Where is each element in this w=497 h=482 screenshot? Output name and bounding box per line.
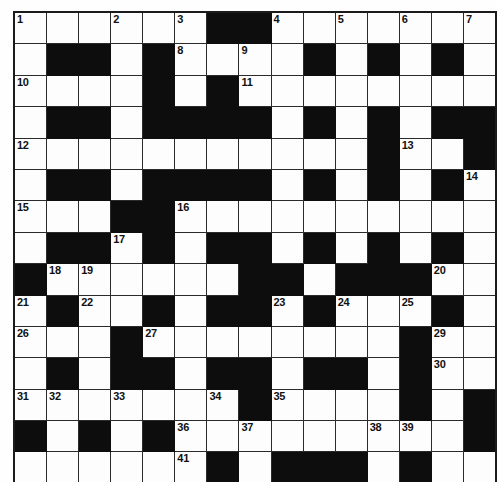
crossword-cell[interactable]: 34 — [207, 389, 239, 420]
crossword-cell[interactable] — [14, 452, 47, 482]
crossword-cell[interactable] — [367, 12, 399, 44]
crossword-cell[interactable] — [335, 75, 367, 106]
crossword-cell[interactable]: 13 — [399, 138, 431, 169]
crossword-cell[interactable] — [47, 452, 79, 482]
crossword-cell[interactable] — [271, 107, 303, 138]
crossword-cell[interactable]: 35 — [271, 389, 303, 420]
crossword-cell[interactable] — [335, 232, 367, 263]
crossword-cell[interactable] — [239, 201, 271, 232]
crossword-cell[interactable]: 11 — [239, 75, 271, 106]
crossword-cell[interactable] — [79, 389, 111, 420]
crossword-cell[interactable] — [175, 264, 207, 295]
crossword-cell[interactable] — [303, 12, 335, 44]
crossword-cell[interactable] — [271, 326, 303, 357]
crossword-cell[interactable]: 9 — [239, 44, 271, 75]
crossword-cell[interactable] — [335, 421, 367, 452]
crossword-cell[interactable] — [367, 452, 399, 482]
crossword-cell[interactable] — [463, 295, 496, 326]
crossword-cell[interactable]: 27 — [143, 326, 175, 357]
crossword-cell[interactable] — [207, 326, 239, 357]
crossword-cell[interactable] — [367, 201, 399, 232]
crossword-cell[interactable] — [47, 138, 79, 169]
crossword-cell[interactable] — [111, 75, 143, 106]
crossword-cell[interactable]: 39 — [399, 421, 431, 452]
crossword-cell[interactable] — [463, 44, 496, 75]
crossword-cell[interactable] — [47, 326, 79, 357]
crossword-cell[interactable] — [175, 326, 207, 357]
crossword-cell[interactable]: 5 — [335, 12, 367, 44]
crossword-cell[interactable]: 36 — [175, 421, 207, 452]
crossword-cell[interactable] — [399, 75, 431, 106]
crossword-cell[interactable] — [335, 138, 367, 169]
crossword-cell[interactable] — [463, 326, 496, 357]
crossword-cell[interactable] — [335, 169, 367, 200]
crossword-cell[interactable] — [175, 138, 207, 169]
crossword-cell[interactable] — [207, 201, 239, 232]
crossword-cell[interactable] — [14, 232, 47, 263]
crossword-cell[interactable] — [303, 326, 335, 357]
crossword-cell[interactable] — [399, 201, 431, 232]
crossword-cell[interactable] — [271, 358, 303, 389]
crossword-cell[interactable] — [175, 232, 207, 263]
crossword-cell[interactable] — [207, 264, 239, 295]
crossword-cell[interactable]: 30 — [431, 358, 463, 389]
crossword-cell[interactable] — [79, 138, 111, 169]
crossword-cell[interactable]: 41 — [175, 452, 207, 482]
crossword-cell[interactable] — [303, 389, 335, 420]
crossword-cell[interactable]: 6 — [399, 12, 431, 44]
crossword-cell[interactable] — [111, 107, 143, 138]
crossword-cell[interactable] — [271, 44, 303, 75]
crossword-cell[interactable] — [175, 389, 207, 420]
crossword-cell[interactable] — [143, 12, 175, 44]
crossword-cell[interactable] — [431, 12, 463, 44]
crossword-cell[interactable] — [14, 169, 47, 200]
crossword-cell[interactable]: 15 — [14, 201, 47, 232]
crossword-cell[interactable] — [399, 44, 431, 75]
crossword-cell[interactable] — [271, 169, 303, 200]
crossword-grid[interactable]: 1234567891011121314151617181920212223242… — [13, 11, 497, 482]
crossword-cell[interactable] — [143, 138, 175, 169]
crossword-cell[interactable] — [303, 75, 335, 106]
crossword-cell[interactable]: 16 — [175, 201, 207, 232]
crossword-cell[interactable] — [271, 232, 303, 263]
crossword-cell[interactable] — [143, 264, 175, 295]
crossword-cell[interactable] — [239, 138, 271, 169]
crossword-cell[interactable]: 10 — [14, 75, 47, 106]
crossword-cell[interactable] — [367, 295, 399, 326]
crossword-cell[interactable]: 7 — [463, 12, 496, 44]
crossword-cell[interactable]: 26 — [14, 326, 47, 357]
crossword-cell[interactable] — [111, 452, 143, 482]
crossword-cell[interactable] — [367, 389, 399, 420]
crossword-cell[interactable]: 1 — [14, 12, 47, 44]
crossword-cell[interactable] — [303, 264, 335, 295]
crossword-cell[interactable] — [111, 138, 143, 169]
crossword-cell[interactable] — [335, 107, 367, 138]
crossword-cell[interactable]: 31 — [14, 389, 47, 420]
crossword-cell[interactable] — [111, 295, 143, 326]
crossword-cell[interactable] — [79, 75, 111, 106]
crossword-cell[interactable] — [79, 326, 111, 357]
crossword-cell[interactable] — [79, 201, 111, 232]
crossword-cell[interactable] — [271, 138, 303, 169]
crossword-cell[interactable]: 20 — [431, 264, 463, 295]
crossword-cell[interactable] — [431, 452, 463, 482]
crossword-cell[interactable] — [463, 264, 496, 295]
crossword-cell[interactable] — [399, 107, 431, 138]
crossword-cell[interactable] — [47, 201, 79, 232]
crossword-cell[interactable]: 29 — [431, 326, 463, 357]
crossword-cell[interactable]: 14 — [463, 169, 496, 200]
crossword-cell[interactable] — [111, 169, 143, 200]
crossword-cell[interactable] — [335, 326, 367, 357]
crossword-cell[interactable] — [79, 12, 111, 44]
crossword-cell[interactable]: 2 — [111, 12, 143, 44]
crossword-cell[interactable]: 22 — [79, 295, 111, 326]
crossword-cell[interactable]: 25 — [399, 295, 431, 326]
crossword-cell[interactable]: 21 — [14, 295, 47, 326]
crossword-cell[interactable] — [367, 326, 399, 357]
crossword-cell[interactable]: 4 — [271, 12, 303, 44]
crossword-cell[interactable] — [47, 75, 79, 106]
crossword-cell[interactable] — [143, 452, 175, 482]
crossword-cell[interactable] — [463, 201, 496, 232]
crossword-cell[interactable] — [175, 358, 207, 389]
crossword-cell[interactable] — [47, 421, 79, 452]
